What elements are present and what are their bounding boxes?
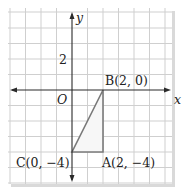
vertex-label-a: A(2, −4) [101, 155, 155, 170]
x-axis-label: x [174, 92, 181, 107]
origin-label: O [57, 92, 67, 107]
coordinate-plane-figure: y x O 2 B(2, 0) A(2, −4) C(0, −4) [0, 0, 188, 193]
vertex-label-b: B(2, 0) [105, 73, 148, 88]
vertex-label-c: C(0, −4) [16, 155, 70, 170]
y-tick-label-2: 2 [59, 52, 67, 67]
y-axis-label: y [75, 10, 84, 25]
